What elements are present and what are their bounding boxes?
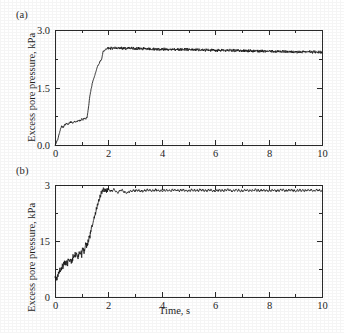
svg-text:0: 0: [45, 292, 50, 303]
svg-text:3.0: 3.0: [37, 25, 50, 36]
svg-text:2: 2: [106, 300, 111, 311]
svg-text:6: 6: [213, 148, 218, 159]
svg-text:8: 8: [267, 300, 272, 311]
svg-text:4: 4: [160, 148, 166, 159]
svg-text:1.5: 1.5: [37, 83, 50, 94]
svg-text:3: 3: [45, 180, 50, 191]
svg-text:0: 0: [53, 300, 58, 311]
svg-text:6: 6: [213, 300, 218, 311]
panel-a: (a) Excess pore pressure, kPa 02468100.0…: [0, 0, 344, 166]
figure-excess-pore-pressure: (a) Excess pore pressure, kPa 02468100.0…: [0, 0, 344, 333]
panel-b-plot: 02468100153: [0, 160, 344, 333]
svg-text:2: 2: [106, 148, 111, 159]
svg-text:15: 15: [40, 236, 51, 247]
data-line: [55, 47, 322, 145]
svg-text:10: 10: [317, 300, 328, 311]
svg-text:10: 10: [317, 148, 328, 159]
svg-text:0: 0: [53, 148, 58, 159]
svg-text:8: 8: [267, 148, 272, 159]
svg-text:0.0: 0.0: [37, 140, 50, 151]
data-line: [55, 188, 322, 281]
panel-a-plot: 02468100.01.53.0: [0, 0, 344, 166]
svg-text:4: 4: [160, 300, 166, 311]
panel-b: (b) Excess pore pressure, kPa Time, s 02…: [0, 160, 344, 333]
